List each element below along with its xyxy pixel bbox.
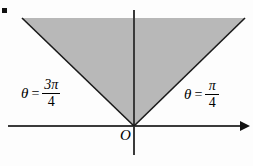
fraction-numerator-left: 3π bbox=[42, 78, 60, 93]
fraction-left: 3π 4 bbox=[42, 78, 60, 109]
origin-label: O bbox=[120, 128, 131, 143]
angle-label-three-pi-over-four: θ = 3π 4 bbox=[21, 78, 60, 109]
fraction-denominator-left: 4 bbox=[46, 94, 57, 109]
polar-wedge-figure: θ = 3π 4 θ = π 4 O bbox=[0, 0, 253, 166]
x-axis-arrowhead-icon bbox=[240, 121, 250, 131]
theta-symbol-left: θ bbox=[21, 86, 28, 101]
theta-symbol-right: θ bbox=[184, 87, 191, 102]
fraction-right: π 4 bbox=[205, 79, 219, 110]
fraction-denominator-right: 4 bbox=[207, 95, 218, 110]
equals-sign-right: = bbox=[194, 88, 202, 102]
equals-sign-left: = bbox=[31, 87, 39, 101]
fraction-numerator-right: π bbox=[207, 79, 218, 94]
angle-label-pi-over-four: θ = π 4 bbox=[184, 79, 219, 110]
